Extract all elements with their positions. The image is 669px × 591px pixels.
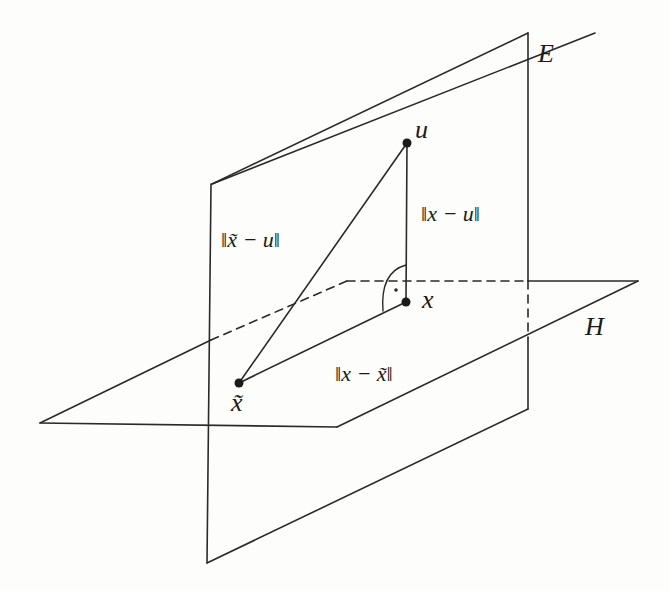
point-x-tilde-label: x̃	[230, 388, 244, 417]
point-x-tilde	[235, 379, 244, 388]
triangle-segments	[239, 143, 407, 383]
right-angle-dot	[394, 288, 398, 292]
norm-x-u-label: ‖x − u‖	[421, 201, 480, 226]
point-x	[402, 298, 411, 307]
projection-diagram-lines: E H u x x̃ ‖x̃ − u‖ ‖x − u‖ ‖x − x̃‖	[0, 0, 669, 591]
segment-xtilde-u	[239, 143, 407, 383]
point-u-label: u	[415, 115, 428, 144]
segment-x-u	[406, 143, 407, 302]
norm-xtilde-u-label: ‖x̃ − u‖	[221, 227, 280, 252]
plane-h-outline	[40, 281, 638, 427]
plane-e-label: E	[537, 39, 554, 68]
point-u	[403, 139, 412, 148]
plane-h-label: H	[584, 312, 605, 341]
norm-x-xtilde-label: ‖x − x̃‖	[335, 361, 393, 386]
plane-e-outline	[207, 33, 528, 563]
point-x-label: x	[421, 285, 434, 314]
